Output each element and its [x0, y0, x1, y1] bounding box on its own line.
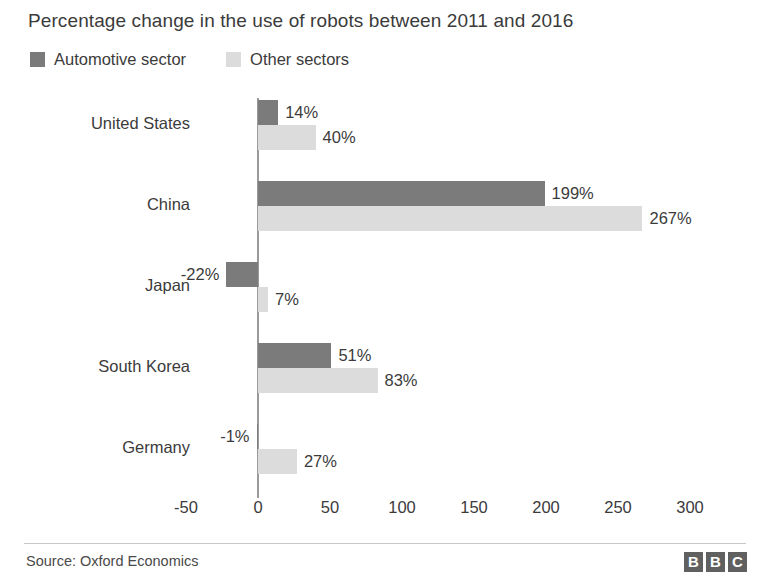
- bar-row: 267%: [0, 206, 769, 231]
- x-axis-tick-label: -50: [174, 498, 198, 517]
- bar-row: 51%: [0, 343, 769, 368]
- bar-group: South Korea51%83%: [0, 343, 769, 393]
- bar[interactable]: [258, 287, 268, 312]
- legend-item-automotive: Automotive sector: [30, 50, 186, 69]
- bar-value-label: 83%: [385, 369, 418, 392]
- source-note: Source: Oxford Economics: [26, 553, 198, 569]
- x-axis-tick-label: 200: [532, 498, 560, 517]
- bar-row: 40%: [0, 125, 769, 150]
- bar[interactable]: [258, 100, 278, 125]
- bar-value-label: 7%: [275, 288, 299, 311]
- bar[interactable]: [226, 262, 258, 287]
- x-axis-tick-label: 300: [676, 498, 704, 517]
- legend-label-automotive: Automotive sector: [54, 50, 186, 69]
- footer-divider: [24, 543, 746, 544]
- bar-group: China199%267%: [0, 181, 769, 231]
- bar-group: United States14%40%: [0, 100, 769, 150]
- bar-group: Japan-22%7%: [0, 262, 769, 312]
- bbc-logo-letter: B: [706, 552, 725, 572]
- bar[interactable]: [258, 125, 316, 150]
- x-axis-tick-label: 100: [388, 498, 416, 517]
- bar-row: -22%: [0, 262, 769, 287]
- chart-plot-area: United States14%40%China199%267%Japan-22…: [0, 88, 769, 503]
- bar[interactable]: [257, 424, 259, 449]
- bar-row: 14%: [0, 100, 769, 125]
- bar-value-label: 14%: [285, 101, 318, 124]
- legend-item-other: Other sectors: [226, 50, 349, 69]
- bbc-logo: BBC: [684, 552, 747, 572]
- bar[interactable]: [258, 368, 378, 393]
- bar-row: 27%: [0, 449, 769, 474]
- bar-value-label: 27%: [304, 450, 337, 473]
- bar[interactable]: [258, 181, 545, 206]
- bbc-logo-letter: B: [684, 552, 703, 572]
- legend-swatch-other-icon: [226, 52, 241, 67]
- bar-value-label: -1%: [220, 425, 249, 448]
- x-axis-tick-label: 150: [460, 498, 488, 517]
- bar-value-label: 40%: [323, 126, 356, 149]
- bar-row: 7%: [0, 287, 769, 312]
- bar-value-label: 199%: [552, 182, 594, 205]
- bar-row: 199%: [0, 181, 769, 206]
- bar-value-label: 51%: [338, 344, 371, 367]
- chart-legend: Automotive sector Other sectors: [30, 50, 349, 69]
- x-axis: -50050100150200250300: [0, 498, 769, 528]
- bar[interactable]: [258, 206, 642, 231]
- bar-row: -1%: [0, 424, 769, 449]
- bar-group: Germany-1%27%: [0, 424, 769, 474]
- bar-value-label: -22%: [181, 263, 220, 286]
- bar-row: 83%: [0, 368, 769, 393]
- bar[interactable]: [258, 449, 297, 474]
- bbc-logo-letter: C: [728, 552, 747, 572]
- legend-swatch-automotive-icon: [30, 52, 45, 67]
- x-axis-tick-label: 0: [253, 498, 262, 517]
- page-title: Percentage change in the use of robots b…: [28, 10, 573, 32]
- bar[interactable]: [258, 343, 331, 368]
- x-axis-tick-label: 50: [321, 498, 339, 517]
- x-axis-tick-label: 250: [604, 498, 632, 517]
- bar-value-label: 267%: [649, 207, 691, 230]
- legend-label-other: Other sectors: [250, 50, 349, 69]
